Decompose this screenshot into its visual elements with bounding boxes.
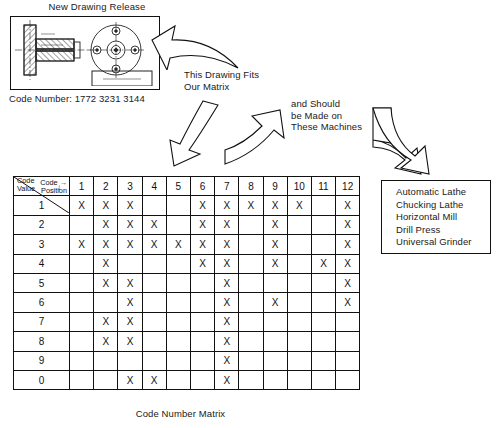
matrix-cell-r5-c11	[311, 273, 335, 292]
matrix-row-value-9: 9	[14, 351, 70, 370]
matrix-cell-r7-c4	[142, 312, 166, 331]
matrix-row-value-4: 4	[14, 254, 70, 273]
matrix-cell-r2-c9: X	[263, 215, 287, 234]
list-item: Chucking Lathe	[396, 199, 496, 212]
matrix-cell-r1-c12: X	[336, 196, 360, 215]
matrix-cell-r4-c7: X	[215, 254, 239, 273]
matrix-cell-r1-c5	[166, 196, 190, 215]
list-item: Automatic Lathe	[396, 186, 496, 199]
matrix-cell-r0-c7: X	[215, 370, 239, 389]
matrix-cell-r8-c8	[239, 332, 263, 351]
matrix-cell-r5-c6	[190, 273, 214, 292]
matrix-cell-r3-c4: X	[142, 235, 166, 254]
table-row: 6XXXX	[14, 293, 360, 312]
table-row: 4XXXXXX	[14, 254, 360, 273]
code-number-matrix: Code → Position Code Value ↓ 12345678910…	[13, 176, 360, 390]
matrix-cell-r9-c4	[142, 351, 166, 370]
curved-arrow-left-icon	[142, 18, 250, 70]
matrix-cell-r7-c10	[287, 312, 311, 331]
matrix-header-row: Code → Position Code Value ↓ 12345678910…	[14, 177, 360, 196]
matrix-row-value-7: 7	[14, 312, 70, 331]
matrix-cell-r2-c7: X	[215, 215, 239, 234]
matrix-cell-r7-c2: X	[94, 312, 118, 331]
table-row: 5XXXX	[14, 273, 360, 292]
matrix-cell-r8-c4	[142, 332, 166, 351]
matrix-cell-r3-c6: X	[190, 235, 214, 254]
matrix-col-header-6: 6	[190, 177, 214, 196]
matrix-col-header-4: 4	[142, 177, 166, 196]
matrix-cell-r2-c1	[70, 215, 94, 234]
curved-arrow-down-icon	[166, 98, 228, 170]
matrix-cell-r5-c4	[142, 273, 166, 292]
matrix-cell-r7-c12	[336, 312, 360, 331]
machine-list: Automatic LatheChucking LatheHorizontal …	[396, 186, 496, 249]
matrix-cell-r6-c11	[311, 293, 335, 312]
matrix-cell-r1-c3: X	[118, 196, 142, 215]
matrix-cell-r3-c8	[239, 235, 263, 254]
matrix-cell-r1-c1: X	[70, 196, 94, 215]
matrix-cell-r5-c3: X	[118, 273, 142, 292]
matrix-cell-r5-c7: X	[215, 273, 239, 292]
matrix-cell-r6-c7: X	[215, 293, 239, 312]
matrix-col-header-7: 7	[215, 177, 239, 196]
note-fits-matrix: This Drawing Fits Our Matrix	[184, 69, 259, 92]
matrix-cell-r5-c1	[70, 273, 94, 292]
matrix-cell-r6-c9: X	[263, 293, 287, 312]
matrix-cell-r0-c3: X	[118, 370, 142, 389]
matrix-col-header-10: 10	[287, 177, 311, 196]
matrix-cell-r2-c3: X	[118, 215, 142, 234]
matrix-cell-r5-c9	[263, 273, 287, 292]
matrix-cell-r9-c9	[263, 351, 287, 370]
matrix-cell-r1-c7: X	[215, 196, 239, 215]
table-row: 0XXX	[14, 370, 360, 389]
matrix-table: Code → Position Code Value ↓ 12345678910…	[13, 176, 360, 390]
matrix-cell-r7-c7: X	[215, 312, 239, 331]
matrix-cell-r8-c6	[190, 332, 214, 351]
matrix-cell-r6-c5	[166, 293, 190, 312]
matrix-cell-r9-c8	[239, 351, 263, 370]
matrix-cell-r8-c5	[166, 332, 190, 351]
matrix-cell-r4-c4	[142, 254, 166, 273]
drawing-release-title: New Drawing Release	[22, 1, 172, 12]
table-row: 7XXX	[14, 312, 360, 331]
matrix-cell-r5-c12: X	[336, 273, 360, 292]
matrix-cell-r7-c8	[239, 312, 263, 331]
matrix-cell-r0-c5	[166, 370, 190, 389]
matrix-cell-r4-c11: X	[311, 254, 335, 273]
matrix-cell-r6-c10	[287, 293, 311, 312]
matrix-caption: Code Number Matrix	[13, 408, 348, 419]
table-row: 9X	[14, 351, 360, 370]
matrix-cell-r8-c3: X	[118, 332, 142, 351]
matrix-corner-header: Code → Position Code Value ↓	[14, 177, 70, 196]
matrix-cell-r0-c12	[336, 370, 360, 389]
matrix-col-header-9: 9	[263, 177, 287, 196]
matrix-cell-r2-c11	[311, 215, 335, 234]
matrix-cell-r1-c8: X	[239, 196, 263, 215]
corner-position-label: Position	[37, 187, 67, 195]
matrix-cell-r9-c2	[94, 351, 118, 370]
list-item: Universal Grinder	[396, 236, 496, 249]
matrix-cell-r3-c2: X	[94, 235, 118, 254]
matrix-cell-r0-c4: X	[142, 370, 166, 389]
note-fits-line1: This Drawing Fits	[184, 69, 259, 81]
matrix-cell-r5-c5	[166, 273, 190, 292]
matrix-row-value-0: 0	[14, 370, 70, 389]
matrix-cell-r3-c1: X	[70, 235, 94, 254]
table-row: 3XXXXXXXXX	[14, 235, 360, 254]
matrix-cell-r2-c2: X	[94, 215, 118, 234]
note-fits-line2: Our Matrix	[184, 81, 259, 93]
matrix-cell-r4-c9: X	[263, 254, 287, 273]
matrix-cell-r4-c6: X	[190, 254, 214, 273]
matrix-row-value-5: 5	[14, 273, 70, 292]
corner-value-label: Value	[17, 185, 35, 193]
matrix-row-value-6: 6	[14, 293, 70, 312]
matrix-cell-r0-c11	[311, 370, 335, 389]
matrix-cell-r3-c12: X	[336, 235, 360, 254]
matrix-body: 1XXXXXXXXX2XXXXXXX3XXXXXXXXX4XXXXXX5XXXX…	[14, 196, 360, 390]
matrix-cell-r6-c6	[190, 293, 214, 312]
matrix-cell-r9-c10	[287, 351, 311, 370]
matrix-cell-r3-c3: X	[118, 235, 142, 254]
curved-arrow-down-right-icon	[369, 100, 469, 178]
matrix-cell-r7-c1	[70, 312, 94, 331]
matrix-cell-r6-c4	[142, 293, 166, 312]
